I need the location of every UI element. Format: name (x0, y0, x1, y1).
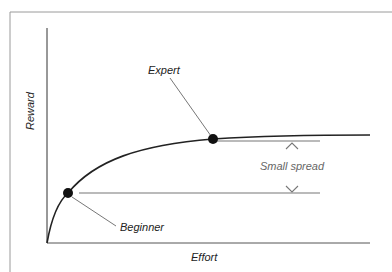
expert-leader-line (170, 78, 211, 136)
spread-label: Small spread (260, 160, 325, 172)
chevron-up-icon (286, 143, 298, 149)
beginner-leader-line (72, 197, 116, 226)
y-axis-label: Reward (24, 91, 36, 130)
frame-border (10, 12, 392, 272)
chevron-down-icon (286, 186, 298, 192)
beginner-dot (63, 188, 73, 198)
x-axis-label: Effort (191, 251, 218, 263)
expert-dot (208, 134, 218, 144)
beginner-label: Beginner (120, 221, 165, 233)
effort-reward-diagram: Expert Beginner Small spread Effort Rewa… (0, 0, 392, 272)
expert-label: Expert (148, 64, 181, 76)
learning-curve (47, 135, 370, 243)
